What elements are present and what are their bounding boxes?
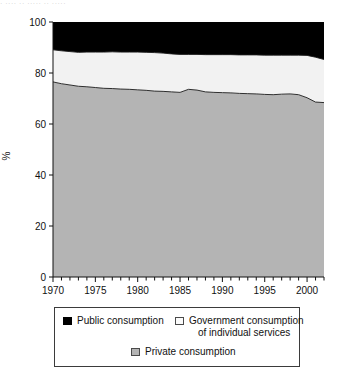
white-square-icon [175,317,184,325]
y-axis-label: % [1,152,12,161]
legend-item-private-consumption: Private consumption [131,346,236,358]
x-tick-label: 1985 [169,285,192,296]
x-tick-label: 2000 [296,285,319,296]
y-tick-label: 20 [35,221,47,232]
black-square-icon [63,317,72,325]
legend-item-public-consumption: Public consumption [63,315,164,327]
legend-label-public-consumption: Public consumption [77,315,164,327]
y-tick-label: 100 [29,17,46,28]
x-tick-label: 1990 [211,285,234,296]
legend-label-government-line1: Government consumption [189,315,304,326]
stacked-area-chart: 0204060801001970197519801985199019952000 [0,8,340,300]
x-tick-label: 1970 [42,285,65,296]
chart-page: · ···· ·· ····· ·· ····· 020406080100197… [0,0,340,381]
y-tick-label: 80 [35,68,47,79]
top-cutoff-artifact: · ···· ·· ····· ·· ····· [0,0,340,8]
legend-label-government-consumption: Government consumption of individual ser… [189,315,304,339]
legend-item-government-consumption: Government consumption of individual ser… [175,315,304,339]
legend-label-private-consumption: Private consumption [145,346,236,358]
y-tick-label: 0 [40,272,46,283]
chart-figure: 0204060801001970197519801985199019952000… [0,8,340,300]
chart-legend: Public consumption Government consumptio… [54,307,300,367]
x-tick-label: 1995 [254,285,277,296]
gray-square-icon [131,348,140,356]
y-tick-label: 60 [35,119,47,130]
x-tick-label: 1980 [127,285,150,296]
legend-label-government-line2: of individual services [189,327,304,339]
x-tick-label: 1975 [84,285,107,296]
y-tick-label: 40 [35,170,47,181]
